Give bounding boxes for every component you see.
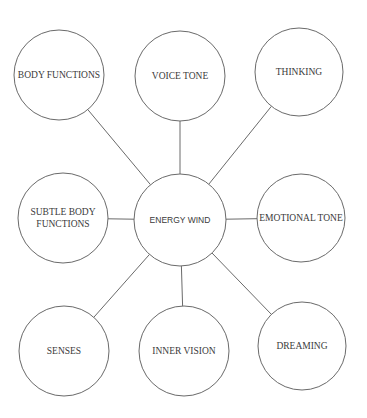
node-circle — [18, 173, 108, 263]
node-emotional-tone: EMOTIONAL TONE — [257, 174, 345, 262]
connector-emotional-tone — [226, 219, 257, 220]
mind-map-diagram: BODY FUNCTIONSVOICE TONETHINKINGSUBTLE B… — [0, 0, 367, 418]
node-label: INNER VISION — [152, 346, 216, 356]
node-label: FUNCTIONS — [36, 219, 89, 229]
connector-thinking — [209, 106, 272, 184]
node-subtle-body-functions: SUBTLE BODYFUNCTIONS — [18, 173, 108, 263]
concept-nodes: BODY FUNCTIONSVOICE TONETHINKINGSUBTLE B… — [14, 28, 346, 396]
node-label: EMOTIONAL TONE — [259, 213, 343, 223]
node-label: SUBTLE BODY — [30, 207, 95, 217]
connector-body-functions — [88, 110, 151, 185]
node-body-functions: BODY FUNCTIONS — [14, 30, 104, 120]
node-label: ENERGY WIND — [150, 215, 211, 225]
connector-dreaming — [212, 253, 271, 314]
node-label: THINKING — [276, 67, 323, 77]
node-label: SENSES — [47, 346, 81, 356]
node-label: DREAMING — [276, 341, 327, 351]
connector-senses — [94, 254, 150, 317]
node-voice-tone: VOICE TONE — [135, 31, 225, 121]
node-inner-vision: INNER VISION — [139, 306, 229, 396]
node-label: BODY FUNCTIONS — [18, 70, 100, 80]
node-label: VOICE TONE — [152, 71, 209, 81]
connector-inner-vision — [181, 266, 182, 306]
node-senses: SENSES — [19, 306, 109, 396]
node-dreaming: DREAMING — [258, 302, 346, 390]
node-thinking: THINKING — [255, 28, 343, 116]
node-energy-wind: ENERGY WIND — [134, 174, 226, 266]
